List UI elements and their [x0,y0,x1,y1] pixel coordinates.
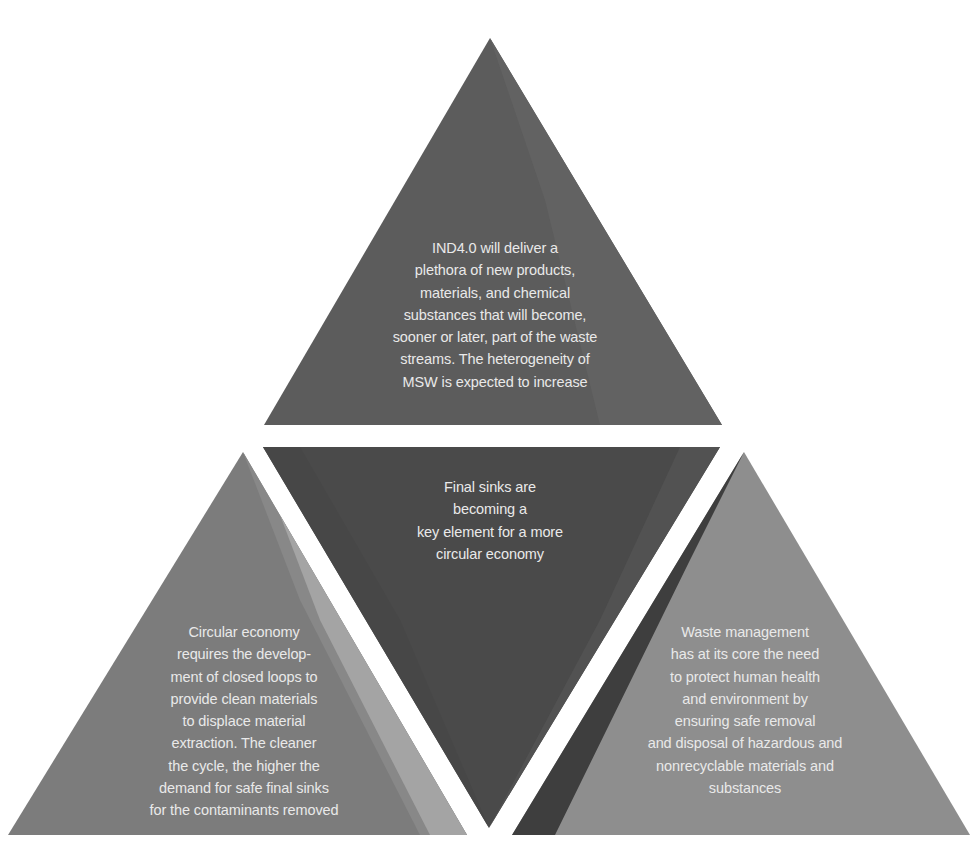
right-triangle-text: Waste management has at its core the nee… [600,621,890,799]
center-triangle-text: Final sinks are becoming a key element f… [350,476,630,565]
left-triangle-text: Circular economy requires the develop- m… [76,621,412,822]
top-triangle-text: IND4.0 will deliver a plethora of new pr… [295,237,695,393]
